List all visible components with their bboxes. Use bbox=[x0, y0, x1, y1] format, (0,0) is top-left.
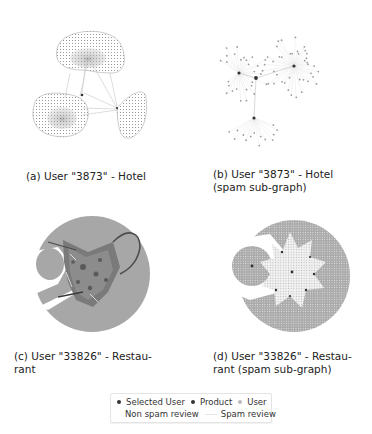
network-graph-b bbox=[216, 18, 358, 160]
legend-row-edges: Non spam review Spam review bbox=[115, 409, 280, 419]
selected-user-dot-icon bbox=[117, 400, 121, 404]
caption-c: (c) User "33826" - Restau- rant bbox=[14, 350, 160, 376]
panel-b-graph bbox=[216, 18, 358, 160]
selected-user-node bbox=[254, 76, 258, 80]
legend-label: Selected User bbox=[126, 397, 185, 407]
legend-row-nodes: Selected User Product User bbox=[115, 397, 271, 407]
legend-label: Spam review bbox=[221, 409, 276, 419]
caption-b-line2: (spam sub-graph) bbox=[213, 181, 361, 194]
legend-item-spam: Spam review bbox=[203, 409, 276, 419]
network-graph-c bbox=[28, 212, 153, 337]
caption-b: (b) User "3873" - Hotel (spam sub-graph) bbox=[213, 168, 361, 194]
legend-label: Product bbox=[200, 397, 232, 407]
product-node bbox=[292, 64, 295, 67]
spam-line-icon bbox=[205, 414, 217, 415]
legend: Selected User Product User Non spam revi… bbox=[110, 393, 272, 423]
caption-b-line1: (b) User "3873" - Hotel bbox=[213, 168, 361, 181]
caption-c-line2: rant bbox=[14, 363, 160, 376]
legend-item-non-spam: Non spam review bbox=[125, 409, 199, 419]
caption-d-line1: (d) User "33826" - Restau- bbox=[213, 350, 361, 363]
panel-c-graph bbox=[28, 212, 153, 337]
network-graph-a bbox=[20, 18, 162, 160]
network-graph-d bbox=[230, 212, 355, 337]
caption-a-text: (a) User "3873" - Hotel bbox=[26, 170, 146, 182]
panel-d-graph bbox=[230, 212, 355, 337]
caption-c-line1: (c) User "33826" - Restau- bbox=[14, 350, 160, 363]
legend-item-selected-user: Selected User bbox=[115, 397, 185, 407]
legend-item-user: User bbox=[236, 397, 266, 407]
legend-item-product: Product bbox=[189, 397, 232, 407]
caption-a: (a) User "3873" - Hotel bbox=[26, 170, 166, 183]
product-node bbox=[237, 71, 240, 74]
caption-d: (d) User "33826" - Restau- rant (spam su… bbox=[213, 350, 361, 376]
legend-label: Non spam review bbox=[125, 409, 199, 419]
user-dot-icon bbox=[238, 400, 242, 404]
caption-d-line2: rant (spam sub-graph) bbox=[213, 363, 361, 376]
panel-a-graph bbox=[20, 18, 162, 160]
product-dot-icon bbox=[191, 400, 195, 404]
legend-label: User bbox=[247, 397, 266, 407]
product-node bbox=[252, 116, 255, 119]
